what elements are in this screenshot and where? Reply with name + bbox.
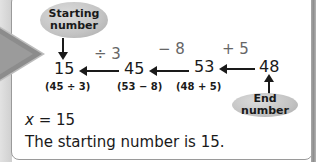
check-45-div-3: (45 ÷ 3): [45, 81, 90, 92]
left-arrow-icon: [155, 70, 189, 72]
operation-divide: ÷ 3: [94, 45, 121, 63]
answer-variable: x: [25, 111, 34, 129]
left-arrow-icon: [85, 70, 119, 72]
left-arrow-icon: [225, 68, 255, 70]
decorative-arrow-inner: [0, 14, 33, 94]
operation-add: + 5: [222, 40, 249, 58]
end-number-bubble: End number: [232, 93, 298, 117]
number-53: 53: [194, 57, 214, 76]
answer-value: = 15: [34, 111, 75, 129]
number-45: 45: [124, 59, 144, 78]
starting-number-bubble: Starting number: [40, 2, 108, 38]
check-53-minus-8: (53 − 8): [117, 81, 162, 92]
answer-statement: The starting number is 15.: [25, 133, 224, 151]
answer-equation: x = 15: [25, 111, 75, 129]
end-number-label: End number: [232, 93, 298, 116]
right-border-bar: [311, 0, 316, 162]
down-arrow-icon: [62, 38, 64, 54]
worked-example-panel: Starting number ÷ 3 − 8 + 5 15 45 53 48 …: [0, 0, 326, 162]
check-48-plus-5: (48 + 5): [176, 81, 221, 92]
number-15: 15: [54, 59, 74, 78]
operation-subtract: − 8: [158, 40, 185, 58]
starting-number-label: Starting number: [48, 8, 100, 31]
